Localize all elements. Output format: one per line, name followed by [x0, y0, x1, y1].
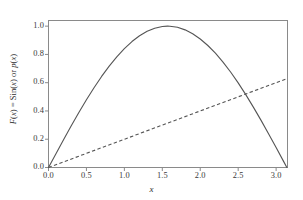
- y-tick-label: 1.0: [18, 22, 44, 30]
- x-tick-label: 0.0: [34, 172, 64, 180]
- y-tick-label: 0.8: [18, 50, 44, 58]
- x-tick-label: 0.5: [71, 172, 101, 180]
- x-tick-label: 1.5: [147, 172, 177, 180]
- y-axis-title: F(x) = Sin(x) or p(x): [8, 14, 18, 164]
- x-axis-title: x: [0, 184, 303, 194]
- y-tick-label: 0.0: [18, 163, 44, 171]
- y-tick-label: 0.4: [18, 107, 44, 115]
- x-tick-label: 3.0: [261, 172, 291, 180]
- figure: 0.00.20.40.60.81.0 0.00.51.01.52.02.53.0…: [0, 0, 303, 200]
- plot-frame: [48, 20, 288, 168]
- x-tick-label: 1.0: [109, 172, 139, 180]
- x-tick-label: 2.5: [223, 172, 253, 180]
- y-tick-label: 0.2: [18, 135, 44, 143]
- y-tick-label: 0.6: [18, 78, 44, 86]
- y-axis-tick-labels: 0.00.20.40.60.81.0: [14, 0, 44, 200]
- x-tick-label: 2.0: [185, 172, 215, 180]
